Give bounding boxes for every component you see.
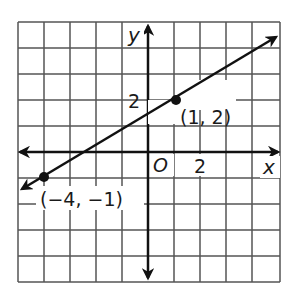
coordinate-graph: y x O 2 2 (1, 2) (−4, −1) [0, 0, 299, 302]
origin-label: O [153, 154, 168, 176]
point-1-2 [171, 95, 181, 105]
y-axis-label: y [127, 23, 141, 47]
x-tick-label-2: 2 [194, 155, 206, 177]
point-neg4-neg1 [39, 172, 49, 182]
x-axis-label: x [262, 155, 275, 179]
y-tick-label-2: 2 [128, 90, 140, 112]
point-label-neg4-neg1: (−4, −1) [40, 188, 123, 210]
point-label-1-2: (1, 2) [180, 106, 231, 128]
